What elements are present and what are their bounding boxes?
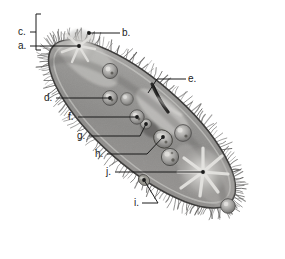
leader-dot-d xyxy=(108,96,112,100)
label-text-i: i. xyxy=(134,197,139,208)
food-vacuole xyxy=(221,199,236,214)
paramecium-figure: a.b.c.d.e.f.g.h.i.j. xyxy=(0,0,285,259)
food-vacuole xyxy=(161,148,178,165)
food-vacuole xyxy=(175,125,192,142)
leader-dot-g xyxy=(144,122,148,126)
leader-dot-f xyxy=(135,115,139,119)
food-vacuole xyxy=(121,93,134,106)
label-text-j: j. xyxy=(105,166,111,177)
paramecium-diagram-svg: a.b.c.d.e.f.g.h.i.j. xyxy=(0,0,285,259)
leader-dot-a xyxy=(77,44,81,48)
leader-dot-h xyxy=(161,135,165,139)
label-text-a: a. xyxy=(18,40,26,51)
label-text-c: c. xyxy=(18,26,26,37)
leader-dot-b xyxy=(87,31,91,35)
leader-dot-i xyxy=(142,178,146,182)
label-text-d: d. xyxy=(44,92,52,103)
label-text-e: e. xyxy=(188,73,196,84)
label-text-h: h. xyxy=(95,148,103,159)
food-vacuole xyxy=(102,63,117,78)
label-text-f: f. xyxy=(68,111,74,122)
label-text-b: b. xyxy=(122,27,130,38)
leader-dot-j xyxy=(201,170,205,174)
label-text-g: g. xyxy=(77,130,85,141)
